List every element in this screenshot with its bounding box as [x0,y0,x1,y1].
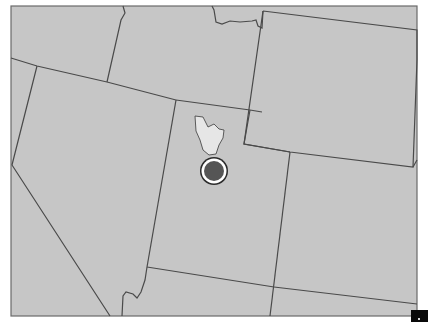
map-canvas[interactable] [0,0,428,322]
map-view[interactable]: Great Salt Lake Location marker [0,0,428,322]
marker-pin-icon [204,161,224,181]
location-marker[interactable] [200,157,228,185]
map-corner-control[interactable] [411,310,428,322]
corner-dot-icon [418,318,420,320]
